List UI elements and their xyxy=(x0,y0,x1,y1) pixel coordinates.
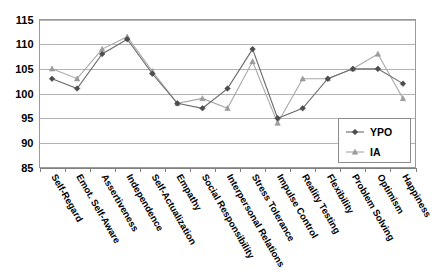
y-tick-label: 90 xyxy=(21,137,33,149)
y-tick-label: 85 xyxy=(21,162,33,174)
y-tick-label: 115 xyxy=(16,14,34,26)
legend-label-ypo: YPO xyxy=(370,126,392,138)
line-chart: 859095100105110115 Self-RegardEmot. Self… xyxy=(0,0,437,278)
y-tick-label: 95 xyxy=(21,112,33,124)
y-tick-label: 100 xyxy=(15,88,33,100)
y-tick-label: 110 xyxy=(16,38,34,50)
chart-legend: YPOIA xyxy=(339,119,411,163)
legend-label-ia: IA xyxy=(370,146,381,158)
chart-canvas: 859095100105110115 Self-RegardEmot. Self… xyxy=(0,0,437,278)
y-tick-label: 105 xyxy=(15,63,33,75)
